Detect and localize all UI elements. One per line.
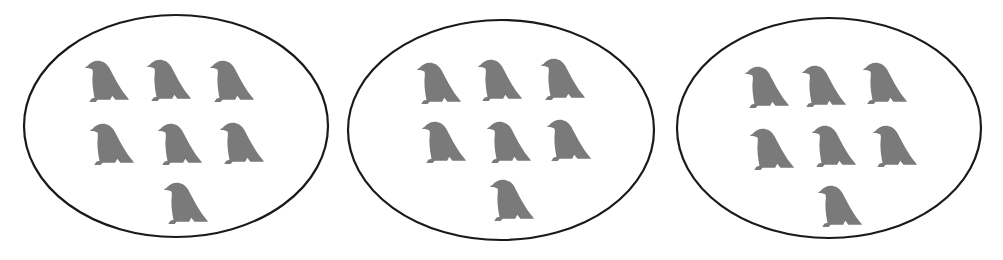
grouping-diagram bbox=[0, 0, 1003, 260]
set-3 bbox=[677, 18, 981, 238]
set-2 bbox=[348, 20, 654, 240]
groups-layer bbox=[24, 15, 981, 240]
set-1 bbox=[24, 15, 328, 237]
